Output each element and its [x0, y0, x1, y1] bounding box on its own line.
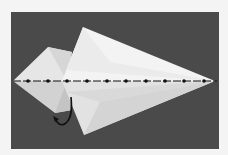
fold-dot [202, 79, 206, 83]
origami-diagram [0, 0, 228, 155]
fold-dot [124, 79, 128, 83]
fold-dot [163, 79, 167, 83]
fold-dot [46, 79, 50, 83]
fold-dot [26, 79, 30, 83]
fold-dot [105, 79, 109, 83]
fold-dot [65, 79, 69, 83]
diagram-canvas [0, 0, 228, 155]
fold-dot [85, 79, 89, 83]
fold-dot [144, 79, 148, 83]
fold-dot [182, 79, 186, 83]
